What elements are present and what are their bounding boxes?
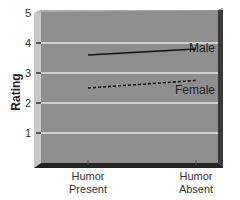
- y-axis-ticks: 12345: [25, 7, 31, 139]
- plot-floor: [34, 163, 223, 168]
- plot-left-wall: [34, 10, 41, 168]
- y-axis-label: Rating: [9, 73, 23, 110]
- y-tick-label: 5: [25, 7, 31, 19]
- x-category-label: Present: [69, 183, 107, 195]
- y-tick-label: 4: [25, 37, 31, 49]
- line-chart: 12345 HumorPresentHumorAbsent MaleFemale…: [0, 0, 240, 200]
- y-tick-label: 1: [25, 127, 31, 139]
- y-tick-label: 3: [25, 67, 31, 79]
- x-category-label: Humor: [71, 170, 104, 182]
- x-category-label: Humor: [179, 170, 212, 182]
- x-category-label: Absent: [179, 183, 213, 195]
- series-label-female: Female: [175, 83, 215, 97]
- y-tick-label: 2: [25, 97, 31, 109]
- plot-right-edge: [218, 8, 223, 166]
- series-label-male: Male: [189, 41, 215, 55]
